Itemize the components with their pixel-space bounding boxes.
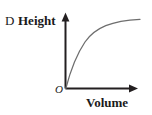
- height-vs-volume-curve: [66, 19, 140, 88]
- y-axis-label: Height: [18, 14, 56, 27]
- answer-choice-letter: D: [5, 14, 14, 27]
- y-axis-arrowhead: [62, 13, 70, 22]
- x-axis-arrowhead: [129, 85, 138, 93]
- origin-label: O: [55, 84, 63, 95]
- graph-figure: D Height Volume O: [0, 0, 152, 115]
- x-axis-label: Volume: [86, 96, 128, 109]
